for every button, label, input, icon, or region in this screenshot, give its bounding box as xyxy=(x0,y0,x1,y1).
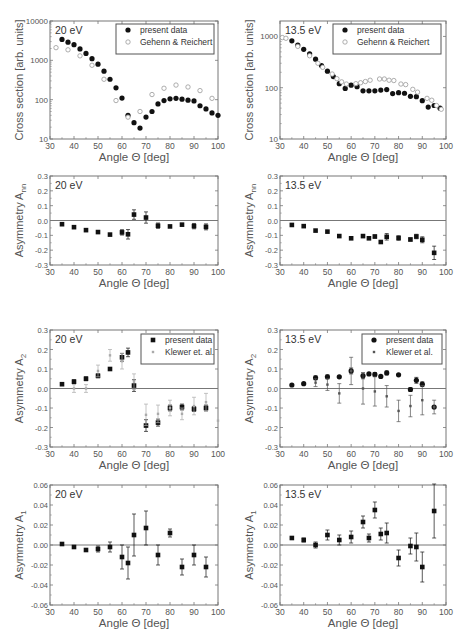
y-tick-label: 0.2 xyxy=(38,346,48,355)
data-point xyxy=(421,399,423,401)
data-point xyxy=(72,225,77,230)
data-point xyxy=(197,103,202,108)
data-point xyxy=(373,234,378,239)
data-point xyxy=(378,87,383,92)
data-point xyxy=(397,410,399,412)
y-tick-label: -0.2 xyxy=(265,424,278,433)
data-point xyxy=(325,533,330,538)
x-tick-label: 80 xyxy=(165,141,175,151)
legend: present dataGehenn & Reichert xyxy=(333,24,441,54)
legend-label: present data xyxy=(386,335,434,345)
x-tick-label: 60 xyxy=(117,607,127,617)
x-tick-label: 80 xyxy=(394,267,404,277)
data-point xyxy=(60,222,65,227)
data-point xyxy=(433,406,435,408)
x-axis-label: Angle Θ [deg] xyxy=(99,617,169,629)
data-point xyxy=(132,533,137,538)
legend-label: present data xyxy=(165,335,213,345)
y-tick-label: 0.02 xyxy=(33,521,48,530)
x-tick-label: 60 xyxy=(117,449,127,459)
data-point xyxy=(168,224,173,229)
data-point xyxy=(66,48,70,52)
data-point xyxy=(89,56,94,61)
data-point xyxy=(301,224,306,229)
y-tick-label: -0.3 xyxy=(35,443,48,452)
data-point xyxy=(384,235,389,240)
y-tick-label: -0.06 xyxy=(31,601,48,610)
legend-label: present data xyxy=(140,25,188,35)
x-tick-label: 100 xyxy=(211,141,225,151)
data-point xyxy=(168,531,173,536)
data-point xyxy=(373,508,378,513)
x-tick-label: 100 xyxy=(439,267,453,277)
data-point xyxy=(403,82,407,86)
data-point xyxy=(173,96,178,101)
data-point xyxy=(350,370,352,372)
data-point xyxy=(320,65,324,69)
x-tick-label: 80 xyxy=(394,607,404,617)
data-point xyxy=(126,232,131,237)
y-axis-label: Asymmetry Ann xyxy=(13,184,28,258)
series-klewer-et-al- xyxy=(314,357,437,421)
x-tick-label: 40 xyxy=(69,607,79,617)
data-point xyxy=(377,77,381,81)
y-axis-label: Cross section [arb. units] xyxy=(243,19,255,140)
data-point xyxy=(119,95,124,100)
data-point xyxy=(96,547,101,552)
data-point xyxy=(408,94,413,99)
y-tick-label: 1000 xyxy=(260,32,278,41)
data-point xyxy=(97,370,99,372)
data-point xyxy=(290,223,295,228)
x-tick-label: 40 xyxy=(299,607,309,617)
data-point xyxy=(198,88,202,92)
y-tick-label: 1000 xyxy=(30,56,48,65)
data-point xyxy=(193,405,195,407)
data-point xyxy=(338,392,340,394)
data-point xyxy=(191,98,196,103)
data-point xyxy=(217,419,219,421)
x-tick-label: 80 xyxy=(165,607,175,617)
data-point xyxy=(296,44,300,48)
y-tick-label: 0.1 xyxy=(38,365,48,374)
data-point xyxy=(372,372,377,377)
data-point xyxy=(126,115,130,119)
x-tick-label: 90 xyxy=(418,141,428,151)
data-point xyxy=(114,98,118,102)
x-tick-label: 40 xyxy=(299,449,309,459)
chart-panel-cs20: 3040506070809010010100100010000Angle Θ [… xyxy=(13,17,225,163)
data-point xyxy=(121,360,123,362)
data-point xyxy=(156,553,161,558)
data-point xyxy=(155,101,160,106)
data-point xyxy=(337,234,342,239)
data-point xyxy=(72,545,77,550)
data-point xyxy=(102,77,106,81)
data-point xyxy=(439,107,443,111)
data-point xyxy=(96,230,101,235)
y-tick-label: 0.3 xyxy=(268,172,278,181)
x-tick-label: 50 xyxy=(93,141,103,151)
x-tick-label: 50 xyxy=(93,449,103,459)
data-point xyxy=(307,54,311,58)
x-tick-label: 100 xyxy=(439,607,453,617)
data-point xyxy=(420,565,425,570)
data-point xyxy=(432,509,437,514)
y-tick-label: -0.2 xyxy=(35,424,48,433)
y-tick-label: 0.3 xyxy=(38,326,48,335)
data-point xyxy=(415,90,419,94)
data-point xyxy=(204,565,209,570)
data-point xyxy=(414,234,419,239)
data-point xyxy=(360,88,365,93)
data-point xyxy=(378,374,383,379)
data-point xyxy=(131,120,136,125)
data-point xyxy=(120,555,125,560)
y-tick-label: 10 xyxy=(269,135,278,144)
data-point xyxy=(387,78,391,82)
y-tick-label: -0.1 xyxy=(35,231,48,240)
x-tick-label: 50 xyxy=(93,607,103,617)
x-tick-label: 40 xyxy=(69,449,79,459)
x-tick-label: 60 xyxy=(346,449,356,459)
legend-marker xyxy=(371,337,376,342)
y-tick-label: 0.0 xyxy=(268,217,278,226)
data-point xyxy=(72,379,77,384)
data-point xyxy=(366,371,371,376)
